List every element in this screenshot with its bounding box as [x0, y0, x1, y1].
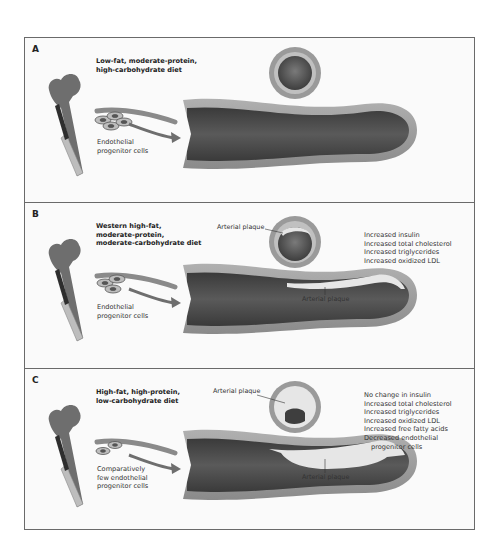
- plaque-label-vessel: Arterial plaque: [302, 473, 349, 481]
- progenitor-cells-icon: [95, 112, 132, 130]
- arrow-icon: [129, 124, 175, 138]
- plaque-label-cross-section: Arterial plaque: [217, 223, 264, 231]
- blood-vessel: [183, 99, 417, 169]
- artery-cross-section: [257, 381, 321, 433]
- arrow-head-icon: [171, 132, 181, 143]
- arrow-icon: [129, 289, 175, 303]
- diet-label: High-fat, high-protein, low-carbohydrate…: [96, 388, 180, 405]
- diet-label: Western high-fat, moderate-protein, mode…: [96, 222, 201, 248]
- plaque-label-vessel: Arterial plaque: [302, 295, 349, 303]
- artery-cross-section: [269, 47, 321, 99]
- bone-icon: [49, 74, 83, 176]
- panel-a-illustration: [25, 38, 474, 202]
- panel-c: C High-fat, high-protein, low-carbohydra…: [25, 368, 474, 530]
- panel-a: A Low-fat, moderate-protein, high-carboh…: [25, 38, 474, 202]
- panel-letter: C: [32, 375, 39, 385]
- plaque-label-cross-section: Arterial plaque: [213, 387, 260, 395]
- artery-cross-section: [265, 216, 321, 268]
- bone-icon: [49, 239, 83, 341]
- arrow-head-icon: [171, 297, 181, 308]
- arrow-head-icon: [171, 463, 181, 474]
- panel-letter: B: [32, 209, 39, 219]
- progenitor-cells-label: Comparatively few endothelial progenitor…: [97, 465, 148, 491]
- progenitor-cells-label: Endothelial progenitor cells: [97, 138, 148, 155]
- bone-icon: [49, 405, 83, 507]
- effects-list: Increased insulin Increased total choles…: [364, 231, 452, 265]
- panel-letter: A: [32, 44, 39, 54]
- diet-label: Low-fat, moderate-protein, high-carbohyd…: [96, 57, 197, 74]
- effects-list: No change in insulin Increased total cho…: [364, 391, 452, 451]
- blood-vessel: [183, 264, 417, 334]
- progenitor-cells-label: Endothelial progenitor cells: [97, 303, 148, 320]
- figure-frame: A Low-fat, moderate-protein, high-carboh…: [24, 37, 475, 530]
- panel-b: B Western high-fat, moderate-protein, mo…: [25, 202, 474, 368]
